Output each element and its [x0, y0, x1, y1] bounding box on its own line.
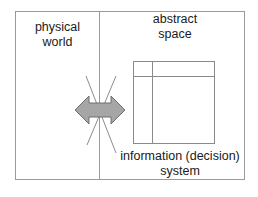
information-system-label: information (decision) system	[110, 149, 250, 179]
abstract-space-label: abstract space	[125, 12, 225, 42]
abstract-space-label-line2: space	[125, 27, 225, 42]
physical-world-label: physical world	[15, 20, 100, 50]
physical-world-label-line1: physical	[15, 20, 100, 35]
information-system-label-line2: system	[110, 164, 250, 179]
information-system-label-line1: information (decision)	[110, 149, 250, 164]
physical-world-label-line2: world	[15, 35, 100, 50]
information-system-box	[134, 62, 215, 144]
abstract-space-label-line1: abstract	[125, 12, 225, 27]
